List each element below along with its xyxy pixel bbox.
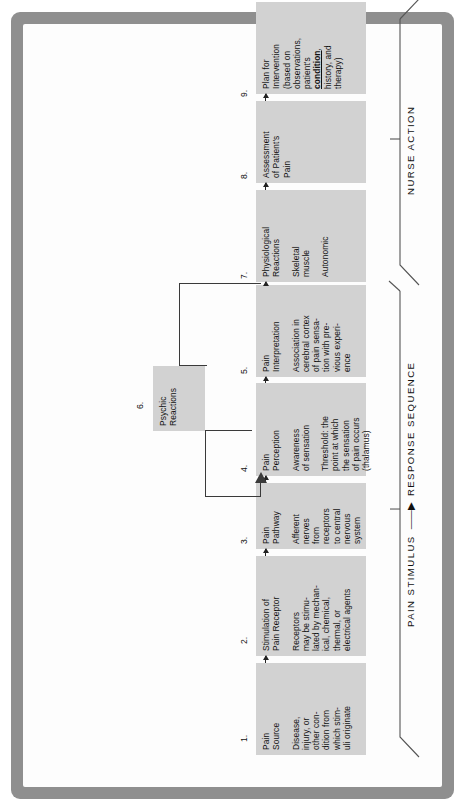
flow-box-assessment-of-patients-pain[interactable]: Assessment of Patient's Pain (256, 101, 366, 183)
box-number-6: 6. (135, 402, 145, 409)
scanned-page: 1. 2. 3. 4. 5. 6. 7. 8. 9. Pain Source D… (0, 0, 465, 810)
flow-box-2-heading: Stimulation of Pain Receptor (261, 561, 282, 651)
flow-box-psychic-reactions[interactable]: Psychic Reactions (153, 366, 205, 431)
box-number-7: 7. (239, 272, 249, 279)
flow-box-4-heading: Pain Perception (261, 388, 282, 471)
flow-box-5-heading: Pain Interpretation (261, 290, 282, 372)
feedline-psychic-into-7 (179, 283, 261, 284)
feedline-psychic-left-stub (205, 430, 252, 431)
section-label-response-sequence: PAIN STIMULUS——▶RESPONSE SEQUENCE (405, 362, 416, 627)
feedline-psychic-to-7 (179, 283, 180, 366)
flow-box-7-body-autonomic: Autonomic (320, 195, 330, 277)
section-label-arrow: ——▶ (405, 496, 416, 535)
feedline-psychic-to-4-v (205, 496, 260, 497)
flow-box-pain-pathway[interactable]: Pain Pathway Afferent nerves from recept… (256, 483, 366, 549)
flow-box-pain-interpretation[interactable]: Pain Interpretation Association in cereb… (256, 285, 366, 377)
flow-box-9-heading: Plan for Intervention (based on observat… (261, 7, 343, 89)
box-number-4: 4. (239, 465, 249, 472)
flow-box-pain-perception[interactable]: Pain Perception Awareness of sensation T… (256, 383, 366, 476)
arrow-4-to-5 (265, 377, 266, 383)
box-number-1: 1. (239, 735, 249, 742)
box-number-2: 2. (239, 637, 249, 644)
flow-box-stimulation-of-pain-receptor[interactable]: Stimulation of Pain Receptor Receptors m… (256, 556, 366, 656)
arrow-5-to-7 (265, 282, 266, 285)
flow-box-3-heading: Pain Pathway (261, 488, 282, 544)
flow-box-4-body-threshold: Threshold: the point at which the sensat… (320, 388, 371, 471)
box-number-9: 9. (239, 90, 249, 97)
flow-box-3-body: Afferent nerves from receptors to centra… (291, 488, 363, 544)
flow-box-4-body-awareness: Awareness of sensation (291, 388, 312, 471)
flow-box-1-heading: Pain Source (261, 668, 282, 750)
flow-box-9-heading-emphasis: condition (312, 50, 322, 89)
flowchart-canvas: 1. 2. 3. 4. 5. 6. 7. 8. 9. Pain Source D… (23, 24, 442, 787)
box-number-8: 8. (239, 172, 249, 179)
flow-box-2-body: Receptors may be stimu- lated by mechan-… (291, 561, 353, 651)
section-label-nurse-action: NURSE ACTION (405, 106, 416, 195)
flow-box-1-body: Disease, injury, or other con- dition fr… (291, 668, 353, 750)
flow-box-physiological-reactions[interactable]: Physiological Reactions Skeletal muscle … (256, 190, 366, 282)
flow-box-6-heading: Psychic Reactions (158, 371, 179, 426)
flow-box-5-body: Association in cerebral cortex of pain s… (291, 290, 353, 372)
flow-box-7-heading: Physiological Reactions (261, 195, 282, 277)
box-number-5: 5. (239, 367, 249, 374)
arrow-psychic-into-4 (255, 472, 267, 483)
flow-box-8-heading: Assessment of Patient's Pain (261, 106, 292, 178)
arrow-8-to-9 (265, 94, 266, 101)
flow-box-7-body-skeletal: Skeletal muscle (291, 195, 312, 277)
flow-box-pain-source[interactable]: Pain Source Disease, injury, or other co… (256, 663, 366, 755)
arrow-1-to-2 (265, 656, 266, 663)
feedline-psychic-down-right (179, 365, 207, 366)
box-number-3: 3. (239, 537, 249, 544)
flow-box-9-heading-start: Plan for Intervention (based on observat… (261, 38, 312, 89)
arrow-2-to-3 (265, 549, 266, 556)
arrow-7-to-8 (265, 183, 266, 190)
section-label-response: RESPONSE SEQUENCE (405, 362, 416, 496)
section-label-pain-stimulus: PAIN STIMULUS (405, 535, 416, 627)
flow-box-plan-for-intervention[interactable]: Plan for Intervention (based on observat… (256, 2, 366, 94)
feedline-psychic-to-4-h (205, 430, 206, 497)
